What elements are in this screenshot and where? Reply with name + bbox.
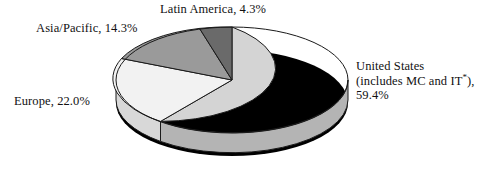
slice-label-united-states-line2-suffix: ), xyxy=(467,74,475,88)
slice-label-united-states-line3: 59.4% xyxy=(356,88,498,103)
slice-label-asia-pacific: Asia/Pacific, 14.3% xyxy=(36,21,138,36)
slice-label-latin-america: Latin America, 4.3% xyxy=(160,2,266,17)
slice-label-europe: Europe, 22.0% xyxy=(14,94,90,109)
slice-label-united-states-line2: (includes MC and IT*), xyxy=(356,74,498,89)
slice-label-united-states-line2-prefix: (includes MC and IT xyxy=(356,74,462,88)
slice-label-united-states: United States (includes MC and IT*), 59.… xyxy=(356,59,498,103)
slice-label-united-states-line1: United States xyxy=(356,59,498,74)
pie-chart: Latin America, 4.3% Asia/Pacific, 14.3% … xyxy=(0,0,499,170)
